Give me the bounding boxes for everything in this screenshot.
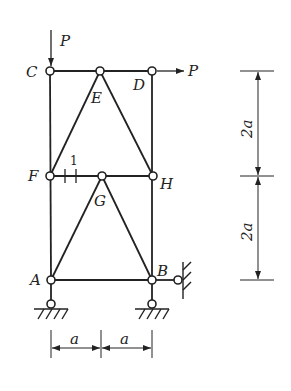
load-label-C: P (59, 32, 71, 50)
truss-drawing: 1 P P C E D F G (0, 0, 291, 391)
node-label-A: A (28, 271, 41, 289)
horizontal-dimension (51, 330, 152, 358)
dim-label-2a-bottom: 2a (238, 223, 256, 243)
dim-label-2a-top: 2a (238, 120, 256, 140)
vertical-dimension (240, 71, 274, 280)
node-label-D: D (132, 76, 145, 94)
ground-support-B (135, 309, 169, 319)
node-label-C: C (26, 63, 38, 81)
dim-label-a-left: a (70, 330, 79, 348)
node-label-E: E (90, 89, 102, 107)
ground-support-A (34, 309, 68, 319)
truss-diagram: 1 P P C E D F G (0, 0, 291, 391)
dim-label-a-right: a (120, 330, 129, 348)
node-label-F: F (27, 167, 39, 185)
node-label-H: H (159, 175, 174, 193)
member-1-label: 1 (70, 154, 78, 168)
node-label-G: G (94, 192, 106, 210)
node-label-B: B (156, 262, 168, 280)
load-label-D: P (187, 62, 199, 80)
wall-support-B (183, 262, 191, 299)
